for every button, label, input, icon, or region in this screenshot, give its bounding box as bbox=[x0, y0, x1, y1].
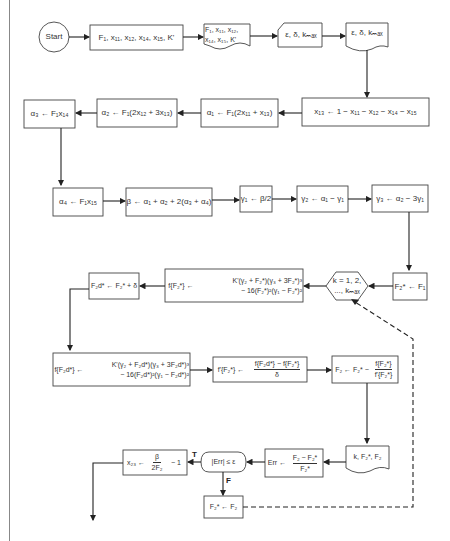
beta-label: β ← α₁ + α₂ + 2(α₃ + α₄) bbox=[126, 188, 212, 216]
x23-denominator: 2F₂ bbox=[152, 463, 163, 473]
alpha1-label: α₁ ← F₁(2x₁₁ + x₁₃) bbox=[201, 99, 278, 127]
err-denominator: F₂* bbox=[300, 464, 310, 474]
fprime-fraction: f{F₂d*} − f{F₂*} δ bbox=[248, 357, 306, 382]
print-params-label: F₁, x₁₁, x₁₂, x₁₄, x₁₅, K' bbox=[205, 24, 250, 46]
fd-lhs-label: f{F₂d*} ← bbox=[54, 353, 84, 386]
gamma2-label: γ₂ ← α₁ − γ₁ bbox=[297, 186, 348, 212]
f-lhs-label: f{F₂*} ← bbox=[166, 269, 196, 302]
x23-lhs-label: x₂₃ ← bbox=[124, 450, 148, 475]
x23-numerator: β bbox=[153, 452, 161, 463]
f-line2: − 16(F₂*)²(γ₁ − F₂*)² bbox=[241, 286, 302, 296]
x13-label: x₁₃ ← 1 − x₁₁ − x₁₂ − x₁₄ − x₁₅ bbox=[302, 98, 429, 126]
start-label: Start bbox=[39, 31, 69, 43]
print-params-line2: x₁₄, x₁₅, K' bbox=[205, 35, 236, 45]
err-lhs-label: Err ← bbox=[266, 449, 288, 477]
loop-line1: k = 1, 2, bbox=[333, 276, 362, 286]
f-line1: K'(γ₂ + F₂*)(γ₃ + 3F₂*)³ bbox=[232, 276, 302, 286]
true-branch-label: T bbox=[192, 450, 197, 459]
fd-line2: − 16(F₂d*)²(γ₁ − F₂d*)² bbox=[120, 370, 189, 380]
fd-line1: K'(γ₂ + F₂d*)(γ₃ + 3F₂d*)³ bbox=[112, 360, 189, 370]
fprime-numerator: f{F₂d*} − f{F₂*} bbox=[254, 359, 301, 370]
input-tol-label: ε, δ, kₘₐₓ bbox=[280, 23, 322, 47]
newton-numerator: f{F₂*} bbox=[375, 359, 391, 370]
decision-label: |Err| ≤ ε bbox=[201, 452, 246, 472]
fd-eval-expression: K'(γ₂ + F₂d*)(γ₃ + 3F₂d*)³ − 16(F₂d*)²(γ… bbox=[84, 354, 189, 385]
newton-denominator: f'{F₂*} bbox=[375, 370, 393, 380]
input-params-label: F₁, x₁₁, x₁₂, x₁₄, x₁₅, K' bbox=[90, 25, 183, 50]
newton-fraction: f{F₂*} f'{F₂*} bbox=[370, 356, 397, 383]
err-fraction: F₂ − F₂* F₂* bbox=[288, 449, 322, 477]
update-label: F₂* ← F₂ bbox=[204, 496, 243, 518]
loop-label: k = 1, 2, ..., kₘₐₓ bbox=[326, 272, 368, 300]
fprime-lhs-label: f'{F₂*} ← bbox=[214, 357, 248, 382]
print-params-line1: F₁, x₁₁, x₁₂, bbox=[205, 25, 238, 35]
newton-lhs-label: F₂ ← F₂* − bbox=[333, 356, 371, 383]
alpha2-label: α₂ ← F₁(2x₁₂ + 3x₁₃) bbox=[97, 99, 177, 127]
alpha3-label: α₃ ← F₁x₁₄ bbox=[24, 100, 75, 128]
f2d-label: F₂d* ← F₂* + δ bbox=[89, 273, 139, 299]
init-f2-label: F₂* ← F₁ bbox=[393, 273, 427, 300]
print-iter-label: k, F₂*, F₂ bbox=[346, 446, 389, 468]
alpha4-label: α₄ ← F₁x₁₅ bbox=[53, 188, 103, 216]
gamma1-label: γ₁ ← β/2 bbox=[240, 186, 272, 212]
gamma3-label: γ₃ ← α₂ − 3γ₁ bbox=[372, 185, 428, 212]
err-numerator: F₂ − F₂* bbox=[293, 453, 318, 464]
f-eval-expression: K'(γ₂ + F₂*)(γ₃ + 3F₂*)³ − 16(F₂*)²(γ₁ −… bbox=[196, 270, 302, 301]
loop-line2: ..., kₘₐₓ bbox=[334, 286, 360, 296]
x23-tail-label: − 1 bbox=[166, 450, 186, 475]
print-tol-label: ε, δ, kₘₐₓ bbox=[346, 23, 388, 43]
x23-fraction: β 2F₂ bbox=[148, 450, 166, 475]
fprime-denominator: δ bbox=[275, 370, 279, 380]
false-branch-label: F bbox=[226, 476, 231, 485]
